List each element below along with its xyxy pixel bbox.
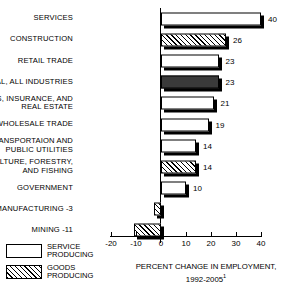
bar-row: SERVICES40: [0, 8, 295, 29]
bar-plot-area: 14: [0, 135, 295, 156]
bar-row: TOTAL, ALL INDUSTRIES23: [0, 72, 295, 93]
bar-fill: [161, 33, 226, 46]
bar-value-label: 23: [226, 56, 235, 65]
x-axis-tick: [111, 232, 112, 237]
bar-fill: [161, 76, 219, 89]
x-axis-tick-label: 40: [249, 239, 273, 248]
x-axis-tick: [236, 232, 237, 237]
caption-footnote-marker: 1: [223, 273, 226, 279]
caption-line-2: 1992-2005: [186, 274, 223, 283]
bar-plot-area: [0, 199, 295, 220]
bar-goods: [161, 160, 196, 173]
bar-goods: [154, 203, 162, 216]
bar-row: CONSTRUCTION26: [0, 29, 295, 50]
bar-fill: [161, 139, 196, 152]
bar-plot-area: 23: [0, 50, 295, 71]
bar-row: WHOLESALE TRADE19: [0, 114, 295, 135]
bar-value-label: 19: [216, 120, 225, 129]
bar-plot-area: 40: [0, 8, 295, 29]
service-producing-swatch: [6, 244, 42, 258]
caption-line-1: PERCENT CHANGE IN EMPLOYMENT,: [136, 262, 277, 271]
bar-fill: [161, 160, 196, 173]
bar-value-label: 23: [226, 78, 235, 87]
x-axis-tick-label: 10: [174, 239, 198, 248]
bar-value-label: 14: [203, 141, 212, 150]
bar-fill: [154, 203, 162, 216]
bar-value-label: 14: [203, 162, 212, 171]
bar-plot-area: 14: [0, 156, 295, 177]
bar-fill: [161, 118, 209, 131]
bar-row: RETAIL TRADE23: [0, 50, 295, 71]
bar-service: [161, 54, 219, 67]
legend-label-service: SERVICE PRODUCING: [47, 243, 93, 260]
bar-plot-area: 19: [0, 114, 295, 135]
x-axis-tick: [261, 232, 262, 237]
employment-change-bar-chart: SERVICES40CONSTRUCTION26RETAIL TRADE23TO…: [0, 0, 295, 292]
x-axis-tick: [136, 232, 137, 237]
bar-row: AGRICULTURE, FORESTRY, AND FISHING14: [0, 156, 295, 177]
bar-goods: [161, 33, 226, 46]
x-axis-tick: [186, 232, 187, 237]
bar-service: [161, 97, 214, 110]
legend-label-goods: GOODS PRODUCING: [47, 264, 93, 281]
bar-fill: [161, 182, 186, 195]
bar-row: FINANCES, INSURANCE, AND REAL ESTATE21: [0, 93, 295, 114]
bar-value-label: 26: [233, 35, 242, 44]
bar-plot-area: 26: [0, 29, 295, 50]
bar-row: TRANSPORTAION AND PUBLIC UTILITIES14: [0, 135, 295, 156]
legend-item-goods: GOODS PRODUCING: [6, 264, 126, 281]
bar-fill: [161, 12, 261, 25]
bar-rows: SERVICES40CONSTRUCTION26RETAIL TRADE23TO…: [0, 8, 295, 241]
bar-service: [161, 182, 186, 195]
x-axis-tick-label: 20: [199, 239, 223, 248]
x-axis-caption: PERCENT CHANGE IN EMPLOYMENT, 1992-20051: [118, 262, 294, 284]
bar-value-label: 21: [221, 99, 230, 108]
bar-service: [161, 118, 209, 131]
bar-row: MANUFACTURING -3: [0, 199, 295, 220]
bar-fill: [161, 54, 219, 67]
bar-row: GOVERNMENT10: [0, 178, 295, 199]
x-axis-tick-label: 30: [224, 239, 248, 248]
bar-value-label: 40: [268, 14, 277, 23]
legend-item-service: SERVICE PRODUCING: [6, 243, 126, 260]
goods-producing-swatch: [6, 265, 42, 279]
x-axis-tick-label: 0: [149, 239, 173, 248]
bar-total: [161, 76, 219, 89]
x-axis-tick-label: -10: [124, 239, 148, 248]
bar-service: [161, 139, 196, 152]
bar-fill: [161, 97, 214, 110]
bar-plot-area: 23: [0, 72, 295, 93]
bar-service: [161, 12, 261, 25]
x-axis-tick: [161, 232, 162, 237]
bar-plot-area: 21: [0, 93, 295, 114]
bar-plot-area: 10: [0, 178, 295, 199]
chart-legend: SERVICE PRODUCING GOODS PRODUCING: [6, 243, 126, 285]
x-axis-tick: [211, 232, 212, 237]
bar-value-label: 10: [193, 184, 202, 193]
